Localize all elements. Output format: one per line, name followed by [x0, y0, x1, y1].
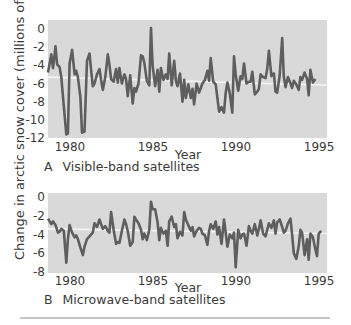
panel-b-microwave-band: 0-2-4-6-8 1980198519901995 Year B Microw…: [33, 190, 334, 307]
panel-a-title: Visible-band satellites: [63, 159, 200, 174]
y-ticks-a: 0-2-4-6-8-10-12: [25, 22, 45, 145]
y-tick-label: -6: [33, 77, 45, 91]
y-ticks-b: 0-2-4-6-8: [33, 190, 45, 279]
panel-b-letter: B: [44, 292, 53, 307]
panel-a-caption: A Visible-band satellites: [44, 159, 200, 174]
y-tick-label: 0: [37, 190, 45, 204]
x-tick-label: 1985: [138, 274, 169, 288]
snow-cover-figure: 0-2-4-6-8-10-12 1980198519901995 Year A …: [0, 0, 351, 325]
panel-a-visible-band: 0-2-4-6-8-10-12 1980198519901995 Year A …: [25, 20, 334, 174]
y-axis-label: Change in arctic snow cover (millions of…: [12, 0, 27, 260]
x-tick-label: 1980: [55, 140, 86, 154]
y-tick-label: -6: [33, 246, 45, 260]
x-tick-label: 1995: [304, 274, 335, 288]
panel-a-letter: A: [44, 159, 53, 174]
y-tick-label: -12: [25, 131, 45, 145]
y-tick-label: -8: [33, 265, 45, 279]
y-tick-label: 0: [37, 22, 45, 36]
y-tick-label: -10: [25, 113, 45, 127]
x-tick-label: 1980: [55, 274, 86, 288]
x-tick-label: 1995: [304, 140, 335, 154]
y-tick-label: -2: [33, 209, 45, 223]
y-tick-label: -8: [33, 95, 45, 109]
y-tick-label: -2: [33, 40, 45, 54]
x-tick-label: 1990: [221, 140, 252, 154]
y-tick-label: -4: [33, 58, 45, 72]
panel-b-title: Microwave-band satellites: [63, 292, 226, 307]
x-tick-label: 1990: [221, 274, 252, 288]
panel-b-caption: B Microwave-band satellites: [44, 292, 225, 307]
x-tick-label: 1985: [138, 140, 169, 154]
y-tick-label: -4: [33, 228, 45, 242]
